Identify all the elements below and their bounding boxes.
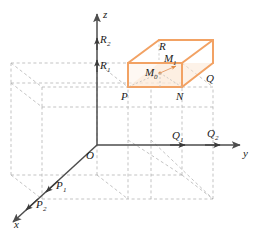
marker-label-R2: R 2 — [99, 33, 111, 48]
marker-label-Q2: Q 2 — [207, 127, 219, 142]
marker-label-P2-base: P — [35, 198, 43, 210]
vertex-label-Q: Q — [206, 72, 214, 84]
figure-canvas: z y x O R 2 R 1 Q 1 Q 2 — [0, 0, 257, 232]
point-label-M1-sub: 1 — [173, 59, 177, 67]
marker-label-P2: P 2 — [35, 198, 47, 213]
coordinate-figure: z y x O R 2 R 1 Q 1 Q 2 — [0, 0, 257, 232]
vertex-label-N: N — [175, 90, 184, 102]
grid-line-plane-diag-far-right — [151, 140, 213, 199]
axis-label-y: y — [242, 147, 248, 159]
marker-label-P1-sub: 1 — [63, 186, 67, 194]
grid-top-left-diag — [11, 63, 42, 87]
marker-label-R1-base: R — [99, 59, 107, 71]
marker-label-Q1-base: Q — [172, 129, 180, 141]
box-edge-right-top-diag — [182, 40, 213, 63]
marker-label-Q1-sub: 1 — [180, 136, 184, 144]
axis-label-z: z — [102, 8, 108, 20]
grid-upper-left-diag — [11, 83, 42, 107]
box-edge-left-top-diag — [128, 40, 159, 63]
origin-label-O: O — [86, 149, 94, 161]
marker-label-R1: R 1 — [99, 59, 111, 74]
vertex-label-R: R — [158, 40, 166, 52]
vertex-label-P: P — [120, 90, 128, 102]
axis-label-x: x — [13, 218, 19, 230]
grid-line-bottom-left-diag — [11, 175, 42, 199]
marker-label-R2-base: R — [99, 33, 107, 45]
point-label-M0-sub: 0 — [154, 73, 158, 81]
marker-label-P1: P 1 — [55, 179, 67, 194]
marker-label-Q1: Q 1 — [172, 129, 184, 144]
marker-label-Q2-base: Q — [207, 127, 215, 139]
marker-label-P1-base: P — [55, 179, 63, 191]
grid-line-bottom-right-diag — [182, 175, 213, 199]
marker-label-P2-sub: 2 — [43, 205, 47, 213]
marker-label-R1-sub: 1 — [107, 66, 111, 74]
marker-label-Q2-sub: 2 — [215, 134, 219, 142]
marker-label-R2-sub: 2 — [107, 40, 111, 48]
grid-line-bottom-mid-diag — [97, 175, 128, 199]
